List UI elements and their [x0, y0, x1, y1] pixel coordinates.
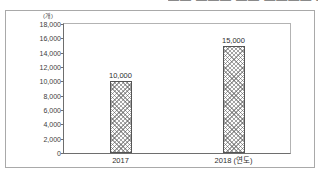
y-axis-unit-label: (개): [43, 12, 53, 20]
y-axis-tick-mark: [61, 24, 64, 25]
x-axis-category-label: 2017: [112, 156, 129, 165]
y-axis-tick-mark: [61, 67, 64, 68]
y-axis-tick-label: 4,000: [43, 121, 61, 128]
bar[interactable]: 15,0002018 (연도): [223, 46, 245, 154]
bar[interactable]: 10,0002017: [110, 81, 132, 153]
bar-value-label: 10,000: [109, 72, 132, 80]
cropped-text-remnant: ▬▬ ▬▬▬ ▬▬ ▬▬▬▬ ▬▬: [168, 0, 318, 4]
y-axis-tick-label: 6,000: [43, 107, 61, 114]
y-axis-tick-mark: [61, 53, 64, 54]
y-axis-tick-mark: [61, 38, 64, 39]
cropped-text-remnant-glyphs: ▬▬ ▬▬▬ ▬▬ ▬▬▬▬ ▬▬: [168, 0, 318, 3]
y-axis-tick-label: 10,000: [40, 78, 61, 85]
y-axis-tick-label: 8,000: [43, 92, 61, 99]
chart-figure-frame: (개) 02,0004,0006,0008,00010,00012,00014,…: [5, 10, 315, 168]
y-axis-tick-mark: [61, 81, 64, 82]
y-axis-tick-label: 0: [57, 150, 61, 157]
y-axis-tick-label: 2,000: [43, 135, 61, 142]
x-axis-category-label: 2018 (연도): [215, 156, 253, 165]
y-axis-tick-label: 14,000: [40, 49, 61, 56]
y-axis-tick-label: 18,000: [40, 21, 61, 28]
plot-area: 02,0004,0006,0008,00010,00012,00014,0001…: [63, 23, 291, 154]
bar-value-label: 15,000: [222, 37, 245, 45]
y-axis-tick-label: 12,000: [40, 64, 61, 71]
y-axis-tick-mark: [61, 153, 64, 154]
y-axis-tick-label: 16,000: [40, 35, 61, 42]
